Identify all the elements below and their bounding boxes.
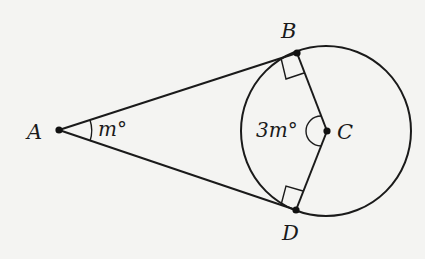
angle-arc-a xyxy=(90,120,92,141)
point-a xyxy=(55,126,62,133)
tangent-circle-diagram: A B C D m° 3m° xyxy=(0,0,425,259)
angle-label-a: m° xyxy=(98,117,127,141)
segment-ad xyxy=(59,130,296,210)
point-c xyxy=(323,127,330,134)
angle-arc-c xyxy=(306,116,321,146)
label-d: D xyxy=(281,221,299,245)
label-b: B xyxy=(280,19,296,43)
label-c: C xyxy=(337,120,353,144)
label-a: A xyxy=(25,120,42,144)
point-d xyxy=(292,206,299,213)
point-b xyxy=(293,49,300,56)
angle-label-c: 3m° xyxy=(256,118,298,142)
